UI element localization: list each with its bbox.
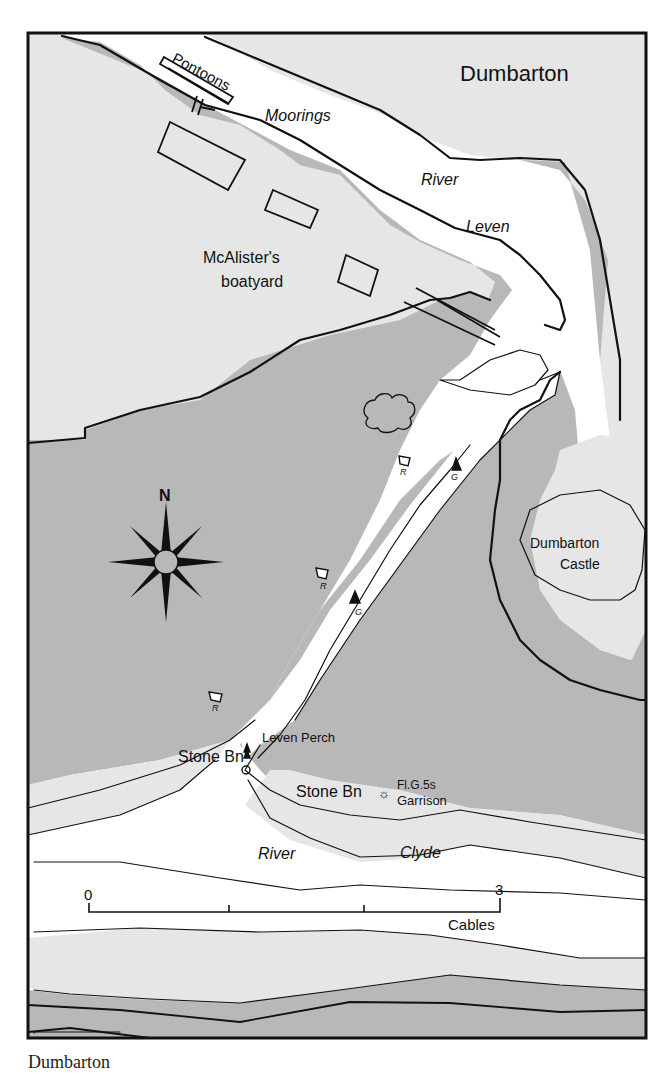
label-garrison: Garrison [397,794,447,807]
label-river-clyde-2: Clyde [400,845,441,861]
scale-label-3: 3 [495,882,503,897]
scale-unit-label: Cables [448,917,495,932]
scale-label-0: 0 [84,887,92,902]
label-river-leven-2: Leven [466,219,510,235]
label-boatyard-1: McAlister's [203,250,280,266]
label-stone-bn-1: Stone Bn [178,749,244,765]
figure-caption: Dumbarton [28,1052,110,1073]
red-buoy-icon [399,456,410,466]
label-river-clyde-1: River [258,846,295,862]
label-leven-perch: Leven Perch [262,731,335,744]
label-light-characteristic: Fl.G.5s [397,779,436,791]
title-dumbarton: Dumbarton [460,63,569,85]
buoy-label-r2: R [320,582,327,591]
label-river-leven-1: River [421,172,458,188]
label-castle-1: Dumbarton [530,536,599,550]
buoy-label-r1: R [400,468,407,477]
red-buoy-icon [316,568,328,579]
label-castle-2: Castle [560,557,600,571]
buoy-label-g2: G [355,608,362,617]
label-boatyard-2: boatyard [221,274,283,290]
buoy-label-r3: R [212,704,219,713]
label-moorings: Moorings [265,108,331,124]
label-stone-bn-2: Stone Bn [296,784,362,800]
buoy-label-g1: G [451,473,458,482]
red-buoy-icon [209,692,222,702]
light-star-icon: ☼ [378,787,390,800]
label-north: N [159,488,171,504]
